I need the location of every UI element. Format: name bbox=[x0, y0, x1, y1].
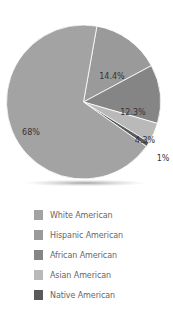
data-label-asian-american: 4.3% bbox=[135, 136, 156, 145]
legend-item-asian-american: Asian American bbox=[34, 265, 123, 285]
legend-swatch bbox=[34, 250, 43, 260]
legend-swatch bbox=[34, 210, 43, 220]
legend-label: Asian American bbox=[50, 271, 111, 280]
data-label-white-american: 68% bbox=[22, 128, 40, 137]
legend-item-african-american: African American bbox=[34, 245, 123, 265]
legend-label: Native American bbox=[50, 291, 115, 300]
legend-item-white-american: White American bbox=[34, 205, 123, 225]
legend-swatch bbox=[34, 270, 43, 280]
pie-chart: 14.4%12.3%4.3%1%68% bbox=[0, 0, 173, 200]
pie-shadow bbox=[23, 180, 147, 187]
legend-item-native-american: Native American bbox=[34, 285, 123, 305]
legend: White American Hispanic American African… bbox=[34, 205, 123, 305]
data-label-african-american: 12.3% bbox=[120, 108, 146, 117]
legend-item-hispanic-american: Hispanic American bbox=[34, 225, 123, 245]
data-label-hispanic-american: 14.4% bbox=[99, 72, 125, 81]
legend-label: African American bbox=[50, 251, 117, 260]
legend-swatch bbox=[34, 290, 43, 300]
legend-label: White American bbox=[50, 211, 112, 220]
legend-label: Hispanic American bbox=[50, 231, 123, 240]
data-label-native-american: 1% bbox=[157, 154, 170, 163]
legend-swatch bbox=[34, 230, 43, 240]
